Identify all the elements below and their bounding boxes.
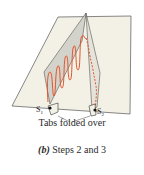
figure-caption: (b) Steps 2 and 3	[0, 144, 144, 155]
caption-part: (b)	[38, 144, 50, 155]
source-s1-dot	[48, 106, 51, 109]
caption-text: Steps 2 and 3	[50, 144, 106, 155]
tabs-folded-label: Tabs folded over	[0, 117, 144, 128]
folded-paper-diagram: S1 S2	[0, 0, 144, 125]
